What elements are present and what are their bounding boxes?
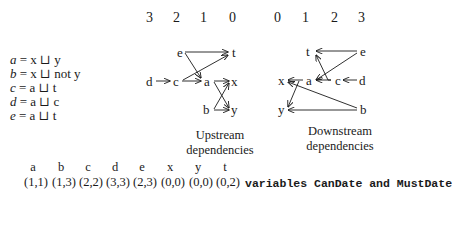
table-value-d: (3,3)	[106, 175, 130, 190]
table-value-a: (1,1)	[24, 175, 48, 190]
upstream-caption: Upstream dependencies	[160, 128, 280, 158]
table-value-t: (0,2)	[216, 175, 240, 190]
node-y: y	[278, 102, 285, 117]
node-e: e	[177, 45, 183, 60]
upstream-graph	[156, 52, 229, 110]
edge-a-y	[214, 82, 229, 108]
edge-c-t	[316, 55, 331, 80]
node-b: b	[360, 102, 367, 117]
table-value-y: (0,0)	[189, 175, 213, 190]
caption-line: Downstream	[280, 124, 400, 139]
table-value-x: (0,0)	[161, 175, 185, 190]
node-e: e	[360, 44, 366, 59]
table-label: variables CanDate and MustDate	[245, 177, 452, 190]
table-value-c: (2,2)	[79, 175, 103, 190]
node-t: t	[232, 45, 236, 60]
node-d: d	[146, 74, 153, 89]
edge-x-y	[288, 81, 299, 107]
caption-line: dependencies	[280, 139, 400, 154]
edge-b-x	[288, 82, 357, 108]
node-d: d	[359, 73, 366, 88]
node-a: a	[204, 74, 210, 89]
table-value-e: (2,3)	[133, 175, 157, 190]
downstream-graph	[288, 51, 357, 110]
table-var-t: t	[208, 160, 242, 175]
node-c: c	[173, 74, 179, 89]
caption-line: dependencies	[160, 143, 280, 158]
edge-b-x	[214, 83, 229, 109]
node-a: a	[306, 73, 312, 88]
node-c: c	[335, 73, 341, 88]
node-b: b	[203, 102, 210, 117]
caption-line: Upstream	[160, 128, 280, 143]
table-value-b: (1,3)	[52, 175, 76, 190]
node-x: x	[278, 73, 285, 88]
node-x: x	[231, 74, 238, 89]
node-y: y	[231, 102, 238, 117]
node-t: t	[306, 44, 310, 59]
downstream-caption: Downstream dependencies	[280, 124, 400, 154]
